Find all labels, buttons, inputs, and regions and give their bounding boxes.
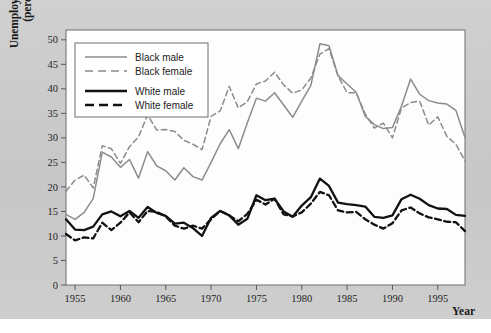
figure-container: Unemployment rate (percent) Year 0510152… <box>0 0 491 333</box>
y-tick-label: 15 <box>48 206 59 217</box>
y-tick-label: 5 <box>53 255 58 266</box>
x-tick-label: 1965 <box>155 293 176 304</box>
y-tick-label: 50 <box>48 34 59 45</box>
y-tick-label: 0 <box>53 280 58 291</box>
x-tick-label: 1970 <box>201 293 222 304</box>
x-tick-label: 1995 <box>427 293 448 304</box>
x-tick-label: 1990 <box>382 293 403 304</box>
x-tick-label: 1980 <box>291 293 312 304</box>
x-tick-label: 1975 <box>246 293 267 304</box>
y-tick-label: 40 <box>48 83 59 94</box>
line-chart: 05101520253035404550 1955196019651970197… <box>0 0 491 333</box>
y-tick-label: 20 <box>48 182 59 193</box>
y-tick-label: 45 <box>48 59 59 70</box>
y-tick-label: 25 <box>48 157 59 168</box>
y-tick-label: 10 <box>48 231 59 242</box>
x-tick-label: 1955 <box>65 293 86 304</box>
legend-label: White male <box>135 86 185 97</box>
chart-legend: Black maleBlack femaleWhite maleWhite fe… <box>75 43 208 117</box>
y-tick-label: 35 <box>48 108 59 119</box>
legend-label: White female <box>135 100 194 111</box>
legend-label: Black male <box>135 52 184 63</box>
x-tick-label: 1985 <box>337 293 358 304</box>
y-tick-label: 30 <box>48 132 59 143</box>
y-axis-ticks: 05101520253035404550 <box>48 34 67 290</box>
x-axis-ticks: 195519601965197019751980198519901995 <box>65 285 449 304</box>
legend-label: Black female <box>135 66 193 77</box>
x-tick-label: 1960 <box>110 293 131 304</box>
